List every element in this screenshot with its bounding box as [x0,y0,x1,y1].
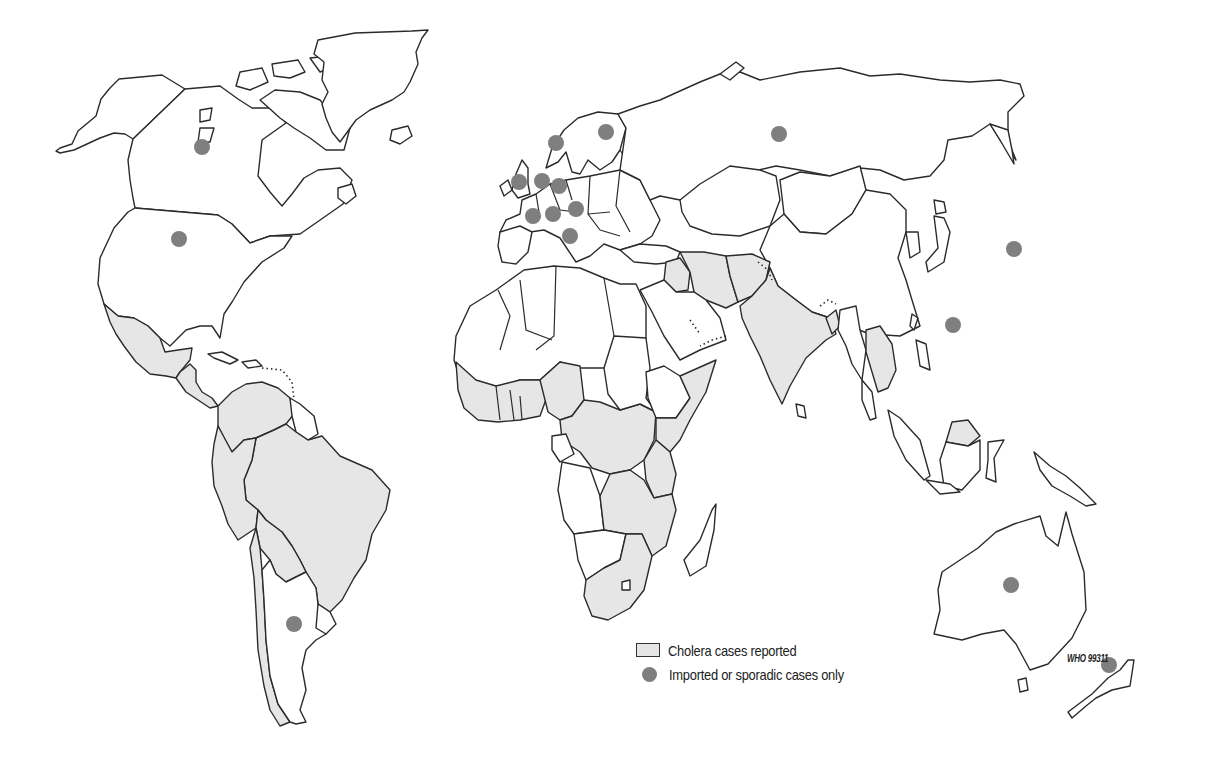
world-map [0,0,1225,757]
arctic-island [272,60,305,78]
marker-netherlands [534,173,550,189]
arctic-island [236,68,268,90]
source-code-label: WHO 99311 [1067,653,1108,664]
marker-australia [1003,577,1019,593]
marker-france [525,208,541,224]
asia [618,62,1096,506]
cuba [208,352,238,364]
marker-austria [568,201,584,217]
grey-dot-icon [642,667,657,682]
sri-lanka [796,404,806,418]
borneo [940,440,980,490]
angola [558,462,604,534]
south-america [212,382,390,726]
philippines [916,340,930,370]
legend-item-cholera-reported: Cholera cases reported [636,638,872,662]
marker-germany [551,178,567,194]
marker-hong-kong [945,317,961,333]
new-zealand [1068,660,1134,718]
legend-item-sporadic-cases: Imported or sporadic cases only [636,662,872,686]
arctic-island [200,108,212,122]
marker-japan [1006,241,1022,257]
greenland [314,30,428,142]
north-america [56,30,428,408]
central-america [176,364,218,408]
marker-italy [562,228,578,244]
marker-russia [771,126,787,142]
marker-argentina [286,616,302,632]
marker-norway [548,135,564,151]
marker-finland [598,124,614,140]
new-guinea [1034,452,1096,506]
legend-label: Cholera cases reported [668,642,796,659]
japan [926,216,950,272]
korea [906,232,920,258]
sulawesi [986,440,1004,482]
tasmania [1018,678,1028,692]
lesotho [622,580,630,590]
oceania [934,512,1134,718]
sumatra [888,410,930,480]
marker-switzerland [545,206,561,222]
malay-peninsula [862,380,876,420]
legend-label: Imported or sporadic cases only [669,666,844,683]
iceland [390,126,412,144]
grey-box-icon [636,643,660,657]
madagascar [684,504,716,576]
marker-uk [511,174,527,190]
marker-united-states [171,231,187,247]
hispaniola [242,360,262,368]
ireland [500,180,512,196]
hokkaido [934,200,946,214]
map-legend: Cholera cases reported Imported or spora… [636,638,872,686]
marker-canada [194,139,210,155]
iberia [498,226,532,264]
kamchatka [990,124,1014,164]
